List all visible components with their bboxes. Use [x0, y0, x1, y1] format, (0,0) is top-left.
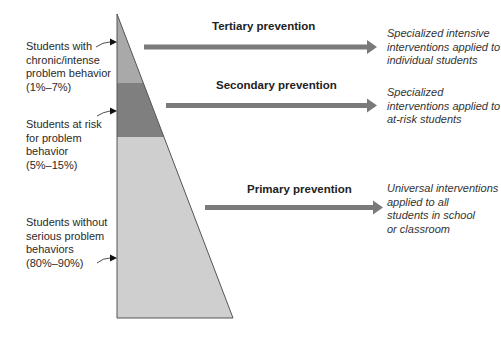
- label-line: problem behavior: [26, 67, 111, 81]
- desc-line: Specialized intensive: [387, 27, 500, 41]
- desc-line: individual students: [387, 54, 500, 68]
- tier-desc-primary: Universal interventions applied to all s…: [387, 182, 498, 236]
- desc-line: at-risk students: [387, 113, 500, 127]
- group-label-without: Students without serious problem behavio…: [26, 216, 107, 270]
- label-line: Students without: [26, 216, 107, 230]
- desc-line: interventions applied to: [387, 100, 500, 114]
- group-label-chronic: Students with chronic/intense problem be…: [26, 40, 111, 94]
- desc-line: applied to all: [387, 196, 498, 210]
- tier-desc-tertiary: Specialized intensive interventions appl…: [387, 27, 500, 68]
- label-line: behaviors: [26, 243, 107, 257]
- label-range: (1%–7%): [26, 81, 111, 95]
- label-line: chronic/intense: [26, 54, 111, 68]
- tier-desc-secondary: Specialized interventions applied to at-…: [387, 86, 500, 127]
- secondary-band: [110, 83, 240, 137]
- label-line: for problem: [26, 132, 102, 146]
- label-range: (80%–90%): [26, 257, 107, 271]
- primary-arrow: [205, 201, 383, 215]
- desc-line: Specialized: [387, 86, 500, 100]
- secondary-arrow: [166, 99, 377, 113]
- label-line: behavior: [26, 145, 102, 159]
- tier-title-secondary: Secondary prevention: [216, 79, 337, 91]
- tier-title-tertiary: Tertiary prevention: [212, 20, 315, 32]
- desc-line: students in school: [387, 209, 498, 223]
- label-line: Students at risk: [26, 118, 102, 132]
- label-line: Students with: [26, 40, 111, 54]
- tier-title-primary: Primary prevention: [247, 183, 352, 195]
- tertiary-arrow: [144, 40, 377, 54]
- label-line: serious problem: [26, 230, 107, 244]
- desc-line: Universal interventions: [387, 182, 498, 196]
- group-label-at-risk: Students at risk for problem behavior (5…: [26, 118, 102, 172]
- pointer-arrow-secondary: [97, 108, 117, 117]
- desc-line: or classroom: [387, 223, 498, 237]
- desc-line: interventions applied to: [387, 41, 500, 55]
- label-range: (5%–15%): [26, 159, 102, 173]
